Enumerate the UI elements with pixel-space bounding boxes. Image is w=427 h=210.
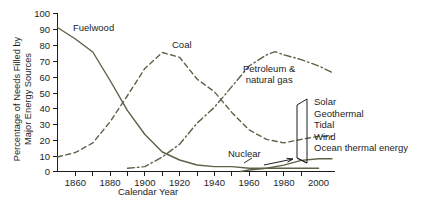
svg-text:30: 30 xyxy=(39,119,50,130)
svg-text:10: 10 xyxy=(39,151,50,162)
alternative-source-geothermal: Geothermal xyxy=(314,108,408,120)
alternative-source-ocean-thermal: Ocean thermal energy xyxy=(314,142,408,154)
series-label-petroleum-natural-gas: Petroleum & natural gas xyxy=(243,63,295,85)
x-axis-title: Calendar Year xyxy=(118,186,178,197)
svg-text:90: 90 xyxy=(39,24,50,35)
series-label-nuclear: Nuclear xyxy=(228,148,261,159)
alternative-source-tidal: Tidal xyxy=(314,119,408,131)
y-tick-marks xyxy=(53,14,58,172)
svg-text:50: 50 xyxy=(39,88,50,99)
alternative-source-wind: Wind xyxy=(314,131,408,143)
alternative-sources-list: Solar Geothermal Tidal Wind Ocean therma… xyxy=(314,96,408,154)
svg-text:0: 0 xyxy=(45,166,50,177)
y-axis-title-line1: Percentage of Needs Filled by xyxy=(12,14,23,184)
svg-text:2000: 2000 xyxy=(308,177,329,188)
series-label-petroleum-line2: natural gas xyxy=(243,74,295,85)
alternative-sources-bracket xyxy=(297,99,307,163)
x-tick-marks xyxy=(75,172,301,177)
series-label-petroleum-line1: Petroleum & xyxy=(243,63,295,74)
svg-text:1960: 1960 xyxy=(239,177,260,188)
svg-text:100: 100 xyxy=(34,8,50,19)
series-label-coal: Coal xyxy=(172,39,192,50)
x-tick-labels: 1860 1880 1900 1920 1940 1960 1980 2000 xyxy=(65,177,329,188)
svg-text:1980: 1980 xyxy=(273,177,294,188)
y-axis-title: Percentage of Needs Filled by Major Ener… xyxy=(12,14,34,184)
svg-text:60: 60 xyxy=(39,72,50,83)
svg-text:1940: 1940 xyxy=(204,177,225,188)
y-tick-labels: 100 90 80 70 60 50 40 30 20 10 0 xyxy=(34,8,50,177)
alternative-source-solar: Solar xyxy=(314,96,408,108)
svg-text:40: 40 xyxy=(39,103,50,114)
svg-text:80: 80 xyxy=(39,40,50,51)
y-axis-title-line2: Major Energy Sources xyxy=(23,14,34,184)
energy-sources-chart: 100 90 80 70 60 50 40 30 20 10 0 xyxy=(0,0,427,210)
svg-text:70: 70 xyxy=(39,56,50,67)
series-label-fuelwood: Fuelwood xyxy=(73,22,114,33)
svg-text:20: 20 xyxy=(39,135,50,146)
svg-text:1860: 1860 xyxy=(65,177,86,188)
